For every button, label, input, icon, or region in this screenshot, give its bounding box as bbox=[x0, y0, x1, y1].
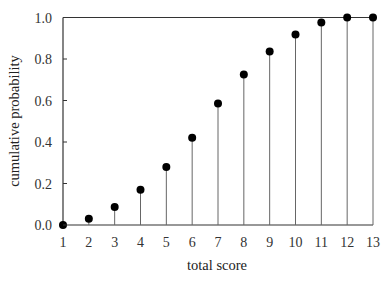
x-tick-label: 9 bbox=[266, 235, 273, 250]
data-point-marker bbox=[137, 186, 145, 194]
y-tick-label: 0.6 bbox=[35, 94, 53, 109]
data-point-marker bbox=[85, 215, 93, 223]
y-tick-label: 0.0 bbox=[35, 218, 53, 233]
x-tick-label: 4 bbox=[137, 235, 144, 250]
x-tick-label: 2 bbox=[85, 235, 92, 250]
x-axis-label: total score bbox=[187, 257, 247, 273]
x-tick-label: 13 bbox=[366, 235, 380, 250]
x-tick-label: 12 bbox=[340, 235, 354, 250]
x-axis-ticks: 12345678910111213 bbox=[60, 235, 381, 250]
data-point-marker bbox=[240, 71, 248, 79]
data-point-marker bbox=[369, 14, 377, 22]
y-axis-label: cumulative probability bbox=[6, 54, 22, 186]
stems bbox=[63, 18, 373, 226]
x-tick-label: 6 bbox=[189, 235, 196, 250]
data-point-marker bbox=[343, 14, 351, 22]
x-tick-label: 11 bbox=[315, 235, 328, 250]
data-point-marker bbox=[111, 203, 119, 211]
y-tick-label: 1.0 bbox=[35, 11, 53, 26]
x-tick-label: 8 bbox=[240, 235, 247, 250]
x-tick-label: 1 bbox=[60, 235, 67, 250]
data-point-marker bbox=[162, 163, 170, 171]
x-tick-label: 5 bbox=[163, 235, 170, 250]
y-tick-label: 0.8 bbox=[35, 52, 53, 67]
cumulative-probability-chart: 12345678910111213 0.00.20.40.60.81.0 tot… bbox=[0, 0, 388, 282]
data-point-marker bbox=[266, 48, 274, 56]
y-axis-ticks: 0.00.20.40.60.81.0 bbox=[35, 11, 68, 234]
data-point-marker bbox=[214, 100, 222, 108]
y-tick-label: 0.4 bbox=[35, 135, 53, 150]
data-point-marker bbox=[317, 18, 325, 26]
x-tick-label: 10 bbox=[289, 235, 303, 250]
y-tick-label: 0.2 bbox=[35, 177, 53, 192]
data-point-marker bbox=[188, 134, 196, 142]
data-point-marker bbox=[292, 31, 300, 39]
x-tick-label: 3 bbox=[111, 235, 118, 250]
x-tick-label: 7 bbox=[215, 235, 222, 250]
